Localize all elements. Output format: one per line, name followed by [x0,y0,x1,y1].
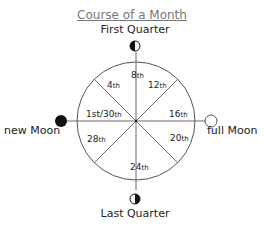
segment-label-8: 8th [131,70,144,80]
moon-cycle-diagram: 8th 12th 16th 20th 24th 28th 1st/30th 4t… [0,0,264,226]
segment-label-4: 4th [107,80,120,90]
segment-label-16: 16th [169,109,188,119]
first-quarter-moon-icon [130,41,140,51]
segment-label-24: 24th [130,162,149,172]
full-moon-label: full Moon [207,124,257,137]
segment-label-1st-30: 1st/30th [86,109,122,119]
segment-label-12: 12th [148,80,167,90]
segment-label-20: 20th [170,133,189,143]
last-quarter-label: Last Quarter [0,207,264,220]
last-quarter-moon-icon [130,194,140,204]
new-moon-label: new Moon [4,124,60,137]
segment-label-28: 28th [87,134,106,144]
